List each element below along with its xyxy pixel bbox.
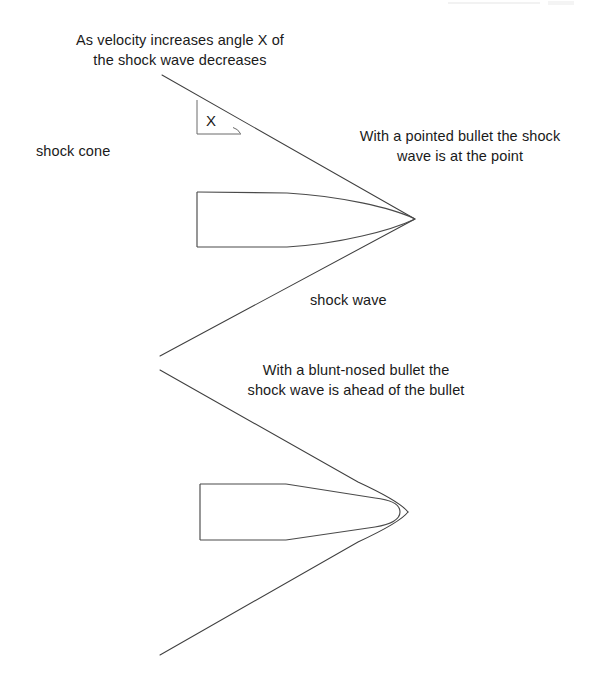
caption-blunt-bullet: With a blunt-nosed bullet the shock wave… [222, 360, 490, 400]
label-shock-wave: shock wave [310, 290, 387, 310]
shock-wave-diagram [0, 0, 599, 686]
caption-velocity-note: As velocity increases angle X of the sho… [55, 30, 305, 70]
lower-shock-cone [160, 370, 408, 655]
label-shock-cone: shock cone [36, 141, 110, 161]
blunt-nosed-bullet [200, 484, 400, 540]
label-angle-x: X [206, 111, 216, 131]
diagram-page: As velocity increases angle X of the sho… [0, 0, 599, 686]
scan-artifact [448, 1, 574, 5]
caption-pointed-bullet: With a pointed bullet the shock wave is … [336, 126, 584, 166]
upper-shock-cone [160, 75, 415, 356]
angle-x-marker [197, 100, 241, 134]
